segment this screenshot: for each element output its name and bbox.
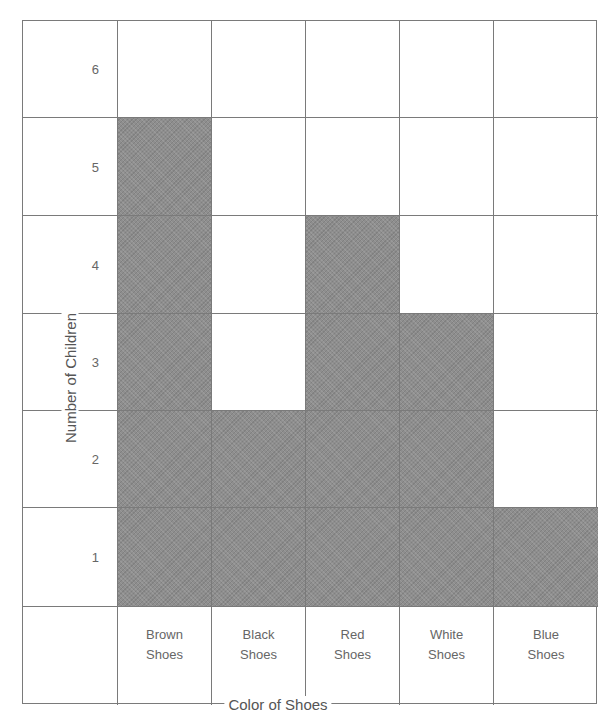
x-tick-line2: Shoes: [494, 645, 598, 665]
bar-cell-filled: [306, 411, 400, 508]
x-tick-line1: Black: [212, 625, 305, 645]
grid-cell-empty: [400, 216, 494, 314]
grid-cell-empty: [212, 216, 306, 314]
y-tick-label: 2: [92, 452, 99, 467]
corner-cell: [23, 607, 118, 705]
bar-cell-filled: [212, 411, 306, 508]
y-tick-cell: 5: [23, 118, 118, 216]
x-tick-label: BrownShoes: [118, 625, 211, 665]
x-tick-cell: WhiteShoes: [400, 607, 494, 705]
x-tick-label: RedShoes: [306, 625, 399, 665]
y-tick-label: 5: [92, 159, 99, 174]
grid-cell-empty: [400, 21, 494, 118]
grid-cell-empty: [212, 21, 306, 118]
bar-cell-filled: [400, 411, 494, 508]
bar-chart: 654321BrownShoesBlackShoesRedShoesWhiteS…: [22, 20, 597, 704]
y-tick-cell: 1: [23, 508, 118, 607]
y-tick-label: 1: [92, 550, 99, 565]
x-tick-cell: BlackShoes: [212, 607, 306, 705]
x-tick-label: BlueShoes: [494, 625, 598, 665]
x-tick-label: BlackShoes: [212, 625, 305, 665]
x-tick-line1: Blue: [494, 625, 598, 645]
bar-cell-filled: [212, 508, 306, 607]
bar-cell-filled: [118, 216, 212, 314]
y-axis-label: Number of Children: [62, 309, 79, 447]
bar-cell-filled: [494, 508, 598, 607]
x-tick-cell: BlueShoes: [494, 607, 598, 705]
y-tick-cell: 4: [23, 216, 118, 314]
grid-cell-empty: [494, 216, 598, 314]
x-tick-line2: Shoes: [212, 645, 305, 665]
x-axis-label: Color of Shoes: [224, 696, 331, 713]
grid-cell-empty: [212, 118, 306, 216]
grid-cell-empty: [494, 21, 598, 118]
bar-cell-filled: [400, 314, 494, 411]
grid-cell-empty: [306, 21, 400, 118]
bar-cell-filled: [306, 216, 400, 314]
x-tick-line1: Brown: [118, 625, 211, 645]
grid-cell-empty: [494, 411, 598, 508]
grid-cell-empty: [212, 314, 306, 411]
x-tick-line1: White: [400, 625, 493, 645]
x-tick-cell: RedShoes: [306, 607, 400, 705]
x-tick-line2: Shoes: [400, 645, 493, 665]
bar-cell-filled: [400, 508, 494, 607]
x-tick-line2: Shoes: [118, 645, 211, 665]
bar-cell-filled: [118, 411, 212, 508]
bar-cell-filled: [118, 508, 212, 607]
grid-cell-empty: [118, 21, 212, 118]
y-tick-label: 3: [92, 355, 99, 370]
chart-grid: 654321BrownShoesBlackShoesRedShoesWhiteS…: [22, 20, 597, 704]
y-tick-cell: 6: [23, 21, 118, 118]
grid-cell-empty: [306, 118, 400, 216]
bar-cell-filled: [118, 118, 212, 216]
x-tick-label: WhiteShoes: [400, 625, 493, 665]
x-tick-line2: Shoes: [306, 645, 399, 665]
grid-cell-empty: [494, 314, 598, 411]
bar-cell-filled: [118, 314, 212, 411]
bar-cell-filled: [306, 314, 400, 411]
bar-cell-filled: [306, 508, 400, 607]
x-tick-cell: BrownShoes: [118, 607, 212, 705]
y-tick-label: 4: [92, 257, 99, 272]
y-tick-label: 6: [92, 62, 99, 77]
grid-cell-empty: [400, 118, 494, 216]
x-tick-line1: Red: [306, 625, 399, 645]
grid-cell-empty: [494, 118, 598, 216]
